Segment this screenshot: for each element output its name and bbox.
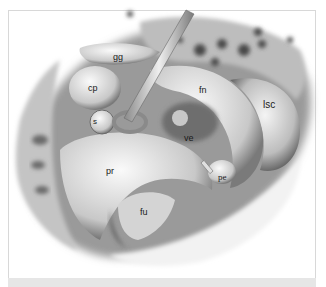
label-cp: cp [88, 84, 98, 93]
label-gg: gg [113, 53, 123, 62]
label-lsc: lsc [263, 100, 275, 110]
label-fu: fu [140, 208, 148, 217]
label-ve: ve [184, 134, 194, 143]
label-pr: pr [106, 167, 114, 176]
label-fn: fn [199, 86, 207, 95]
label-pe: pe [218, 173, 227, 182]
middle-ear-illustration [0, 0, 326, 287]
label-s: s [93, 118, 97, 126]
